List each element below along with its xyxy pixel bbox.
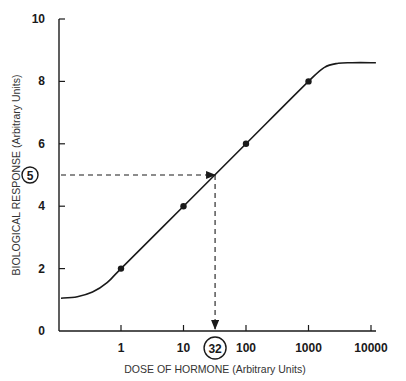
- x-tick-label: 10000: [354, 341, 388, 355]
- y-tick-label: 0: [38, 324, 45, 338]
- data-point-marker: [243, 141, 249, 147]
- x-tick-label: 1: [118, 341, 125, 355]
- circled-label-text: 32: [208, 342, 222, 356]
- y-tick-label: 10: [32, 12, 46, 26]
- data-point-marker: [180, 203, 186, 209]
- y-tick-label: 4: [38, 199, 45, 213]
- x-axis-ticks: 110100100010000: [118, 325, 388, 355]
- dose-response-chart: 0246810 110100100010000 532 BIOLOGICAL R…: [0, 0, 406, 381]
- y-tick-label: 8: [38, 74, 45, 88]
- x-tick-label: 100: [236, 341, 256, 355]
- x-tick-label: 1000: [295, 341, 322, 355]
- data-point-marker: [118, 265, 124, 271]
- circled-label-text: 5: [27, 169, 34, 183]
- x-axis-title: DOSE OF HORMONE (Arbitrary Units): [124, 363, 305, 375]
- y-axis-title: BIOLOGICAL RESPONSE (Arbitrary Units): [10, 75, 22, 276]
- x-tick-label: 10: [177, 341, 191, 355]
- data-point-marker: [305, 78, 311, 84]
- y-tick-label: 2: [38, 262, 45, 276]
- y-tick-label: 6: [38, 137, 45, 151]
- dose-response-curve: [61, 63, 376, 299]
- annotations: 532: [22, 167, 226, 359]
